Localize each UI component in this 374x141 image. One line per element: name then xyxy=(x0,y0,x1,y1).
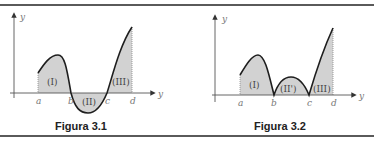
tick-c: c xyxy=(307,98,312,108)
region-ii-label: (II) xyxy=(82,97,96,107)
figure-3-2: y y a b c d (I) (II') (III) xyxy=(212,14,365,108)
region-i-label: (I) xyxy=(249,80,260,90)
figure-3-1: y y a b c d (I) (II) (III) xyxy=(10,12,164,113)
region-iii-label: (III) xyxy=(313,84,331,94)
tick-b: b xyxy=(68,96,74,106)
y-axis-label: y xyxy=(19,12,26,22)
tick-b: b xyxy=(271,98,277,108)
region-i-label: (I) xyxy=(47,77,58,87)
tick-d: d xyxy=(331,98,337,108)
caption-figura-3-1: Figura 3.1 xyxy=(55,120,107,132)
bottom-rule xyxy=(0,135,374,137)
region-i-fill xyxy=(38,55,71,93)
region-ii-prime-label: (II') xyxy=(280,84,297,94)
tick-d: d xyxy=(130,96,136,106)
caption-figura-3-2: Figura 3.2 xyxy=(254,120,306,132)
y-axis-label: y xyxy=(221,14,228,24)
region-iii-label: (III) xyxy=(112,77,130,87)
tick-a: a xyxy=(238,98,243,108)
tick-a: a xyxy=(36,96,41,106)
tick-c: c xyxy=(105,96,110,106)
x-axis-label: y xyxy=(358,91,365,101)
x-axis-label: y xyxy=(157,89,164,99)
